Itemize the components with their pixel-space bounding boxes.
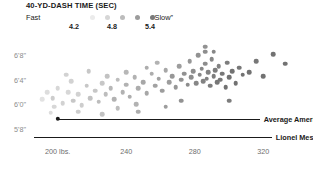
data-point — [160, 88, 165, 93]
data-point — [71, 98, 76, 103]
data-point — [227, 75, 232, 80]
data-point — [112, 97, 117, 102]
lionel-messi-label: Lionel Messi (4.5 sec estimate) — [276, 133, 313, 142]
data-point — [76, 109, 81, 114]
data-point — [124, 70, 129, 75]
data-point — [254, 59, 259, 64]
data-point — [155, 60, 160, 65]
data-point — [136, 109, 141, 114]
data-point — [79, 103, 84, 108]
x-tick-label-2: 280 — [189, 147, 201, 156]
data-point — [156, 76, 161, 81]
data-point — [127, 95, 132, 100]
data-point — [88, 96, 93, 101]
data-point — [191, 69, 196, 74]
data-point — [227, 98, 232, 103]
data-point — [210, 57, 215, 62]
data-point — [208, 84, 213, 89]
data-point — [49, 111, 54, 116]
data-point — [93, 88, 98, 93]
data-point — [199, 66, 204, 71]
data-point — [230, 69, 235, 74]
data-point — [50, 96, 55, 101]
data-point — [203, 44, 208, 49]
data-point — [220, 71, 225, 76]
chart-root: 40-YD-DASH TIME (SEC) Fast “Slow” 4.24.8… — [0, 0, 313, 178]
data-point — [40, 97, 45, 102]
data-point — [120, 90, 125, 95]
data-point — [206, 70, 211, 75]
data-point — [163, 104, 168, 109]
data-point — [115, 77, 120, 82]
data-point — [198, 73, 203, 78]
data-point — [196, 53, 201, 58]
data-point — [223, 85, 228, 90]
data-point — [132, 75, 137, 80]
data-point — [144, 91, 149, 96]
data-point — [100, 112, 105, 117]
data-point — [136, 86, 141, 91]
data-point — [177, 64, 182, 69]
y-tick-label-0: 6'8" — [4, 51, 26, 60]
scatter-plot-area: 6'8"6'4"6'0"5'8" Average American male (… — [0, 0, 313, 178]
data-point — [105, 74, 110, 79]
x-tick-label-3: 320 — [257, 147, 269, 156]
data-point — [203, 62, 208, 67]
data-point — [45, 90, 50, 95]
data-point — [261, 74, 266, 79]
data-point — [85, 84, 90, 89]
y-tick-label-3: 5'8" — [4, 124, 26, 133]
data-point — [194, 81, 199, 86]
data-point — [187, 59, 192, 64]
x-tick-label-1: 240 — [120, 147, 132, 156]
data-point — [163, 68, 168, 73]
data-point — [211, 49, 216, 54]
x-tick-label-0: 200 lbs. — [45, 147, 70, 156]
average-american-male-label: Average American male (>6.0 sec) — [264, 114, 313, 123]
data-point — [141, 80, 146, 85]
data-point — [204, 76, 209, 81]
data-point — [100, 81, 105, 86]
data-point — [76, 92, 81, 97]
data-point — [189, 75, 194, 80]
data-point — [247, 70, 252, 75]
data-point — [186, 82, 191, 87]
data-point — [96, 100, 101, 105]
lionel-messi-line — [34, 137, 272, 138]
data-point — [69, 79, 74, 84]
data-point — [167, 80, 172, 85]
data-point — [134, 102, 139, 107]
average-american-male-marker — [55, 117, 59, 121]
data-point — [108, 86, 113, 91]
data-point — [225, 60, 230, 65]
data-point — [237, 65, 242, 70]
data-point — [182, 71, 187, 76]
data-point — [179, 77, 184, 82]
y-tick-label-1: 6'4" — [4, 75, 26, 84]
data-point — [153, 84, 158, 89]
data-point — [179, 98, 184, 103]
data-point — [61, 101, 66, 106]
data-point — [271, 52, 276, 57]
data-point — [103, 92, 108, 97]
y-tick-label-2: 6'0" — [4, 100, 26, 109]
data-point — [218, 77, 223, 82]
data-point — [86, 69, 91, 74]
data-point — [216, 64, 221, 69]
data-point — [52, 104, 57, 109]
data-point — [66, 90, 71, 95]
data-point — [283, 62, 288, 67]
data-point — [124, 82, 129, 87]
data-point — [115, 106, 120, 111]
data-point — [55, 86, 60, 91]
data-point — [211, 74, 216, 79]
data-point — [144, 65, 149, 70]
data-point — [64, 73, 69, 78]
data-point — [170, 74, 175, 79]
data-point — [150, 71, 155, 76]
data-point — [233, 81, 238, 86]
data-point — [203, 49, 208, 54]
data-point — [240, 73, 245, 78]
average-american-male-line — [58, 119, 260, 120]
data-point — [174, 85, 179, 90]
